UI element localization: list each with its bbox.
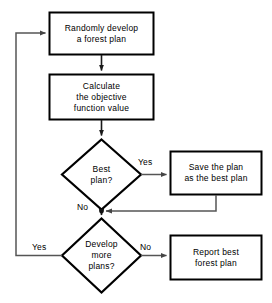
flowchart-canvas: Randomly develop a forest plan Calculate… — [0, 0, 272, 303]
node-shape-random-plan — [50, 13, 154, 55]
node-shape-calculate-objective — [50, 75, 154, 120]
merge-junction-dot — [99, 209, 104, 214]
node-shape-save-best-plan — [171, 152, 262, 195]
flowchart-connectors-layer — [0, 0, 272, 303]
connector-develop-yes-loop-to-random — [16, 33, 62, 256]
edge-label-best-plan-no: No — [77, 202, 88, 212]
node-shape-report-best-plan — [171, 236, 262, 280]
node-shape-develop-more-decision — [62, 219, 141, 293]
node-shape-best-plan-decision — [62, 140, 141, 210]
edge-label-develop-more-yes: Yes — [32, 242, 46, 252]
connector-save-to-merge — [106, 195, 216, 211]
edge-label-best-plan-yes: Yes — [138, 157, 152, 167]
edge-label-develop-more-no: No — [140, 242, 151, 252]
